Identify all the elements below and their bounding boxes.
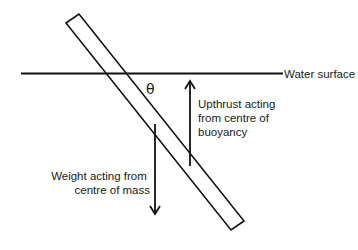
angle-theta-label: θ xyxy=(146,81,155,97)
water-surface-label: Water surface xyxy=(284,68,355,80)
weight-label: Weight acting from centre of mass xyxy=(51,170,150,196)
buoyancy-diagram: Water surface θ Upthrust acting from cen… xyxy=(0,0,358,250)
upthrust-arrow xyxy=(185,81,195,166)
upthrust-label: Upthrust acting from centre of buoyancy xyxy=(198,98,279,138)
weight-arrow xyxy=(150,124,160,214)
